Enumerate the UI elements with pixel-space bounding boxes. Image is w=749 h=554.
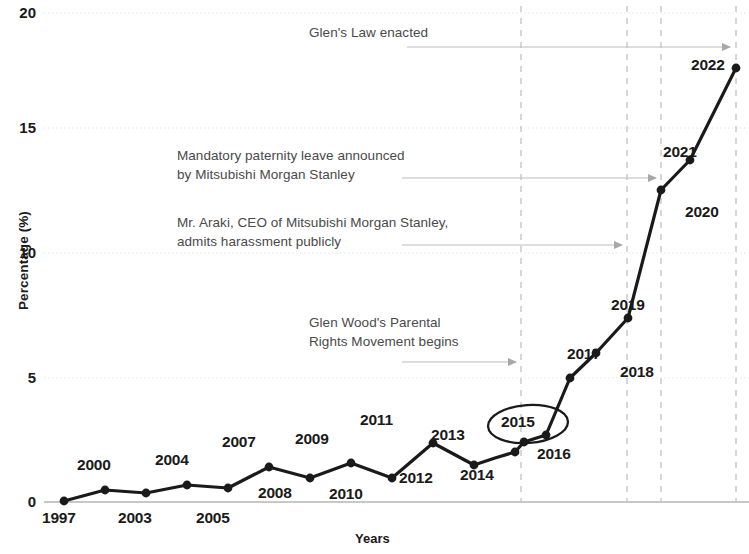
point-label-2013: 2013 xyxy=(431,426,465,444)
y-tick-0: 0 xyxy=(0,493,36,510)
y-tick-5: 5 xyxy=(0,369,36,386)
marker-2005[interactable] xyxy=(224,484,233,493)
annotation-parental-rights-line1: Glen Wood's Parental xyxy=(309,314,441,332)
point-label-2021: 2021 xyxy=(663,143,697,161)
annotation-araki-harassment-line2: admits harassment publicly xyxy=(177,233,341,251)
point-label-2011: 2011 xyxy=(360,411,393,429)
marker-2009[interactable] xyxy=(347,459,356,468)
marker-1997[interactable] xyxy=(60,497,69,506)
point-label-2014: 2014 xyxy=(460,466,494,484)
marker-2008[interactable] xyxy=(306,474,315,483)
point-label-2009: 2009 xyxy=(295,430,329,448)
annotation-glens-law: Glen's Law enacted xyxy=(309,24,428,42)
point-label-2015: 2015 xyxy=(501,413,535,431)
point-label-2016: 2016 xyxy=(537,445,571,463)
marker-2019[interactable] xyxy=(624,314,633,323)
marker-2010[interactable] xyxy=(388,474,397,483)
y-tick-20: 20 xyxy=(0,4,36,21)
chart-canvas: Percentage (%) 20 15 10 5 0 Years 1997 2… xyxy=(0,0,749,554)
point-label-2007: 2007 xyxy=(222,433,256,451)
point-label-1997: 1997 xyxy=(42,509,76,527)
point-label-2003: 2003 xyxy=(118,509,152,527)
point-label-2017: 2017 xyxy=(567,345,601,363)
line-chart-svg xyxy=(0,0,749,554)
marker-2013[interactable] xyxy=(511,448,520,457)
y-tick-15: 15 xyxy=(0,119,36,136)
point-label-2012: 2012 xyxy=(399,469,433,487)
marker-2017[interactable] xyxy=(566,374,575,383)
point-label-2020: 2020 xyxy=(685,203,719,221)
data-line-percentage xyxy=(64,68,736,501)
marker-2003[interactable] xyxy=(142,489,151,498)
annotation-araki-harassment-line1: Mr. Araki, CEO of Mitsubishi Morgan Stan… xyxy=(177,214,448,232)
marker-2007[interactable] xyxy=(265,463,274,472)
point-label-2019: 2019 xyxy=(611,296,645,314)
x-axis-title: Years xyxy=(355,531,390,546)
annotation-paternity-leave-line1: Mandatory paternity leave announced xyxy=(177,147,405,165)
annotation-parental-rights-line2: Rights Movement begins xyxy=(309,333,459,351)
point-label-2004: 2004 xyxy=(155,451,189,469)
point-label-2018: 2018 xyxy=(620,363,654,381)
point-label-2022: 2022 xyxy=(691,56,725,74)
point-label-2000: 2000 xyxy=(77,456,111,474)
vertical-marker-lines xyxy=(521,6,736,502)
y-tick-10: 10 xyxy=(0,244,36,261)
marker-2020[interactable] xyxy=(657,186,666,195)
marker-2000[interactable] xyxy=(101,486,110,495)
point-label-2010: 2010 xyxy=(329,485,363,503)
point-label-2008: 2008 xyxy=(258,484,292,502)
point-label-2005: 2005 xyxy=(196,509,230,527)
annotation-arrows xyxy=(402,47,730,362)
marker-2022[interactable] xyxy=(732,64,741,73)
marker-2004[interactable] xyxy=(183,481,192,490)
annotation-paternity-leave-line2: by Mitsubishi Morgan Stanley xyxy=(177,166,355,184)
